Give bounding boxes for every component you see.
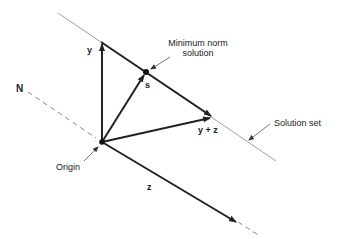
null-space-n-line (28, 92, 96, 138)
label-minimum-norm-line2: solution (166, 48, 230, 58)
minimum-norm-leader (151, 57, 170, 69)
null-space-continuation (238, 222, 260, 236)
label-minimum-norm-line1: Minimum norm (166, 38, 230, 48)
solution-set-leader (249, 124, 270, 140)
origin-point (99, 139, 105, 145)
minimum-norm-point (143, 69, 149, 75)
label-y-plus-z: y + z (198, 125, 218, 135)
vector-z (102, 142, 236, 222)
label-solution-set: Solution set (274, 118, 321, 128)
vector-s (102, 75, 144, 142)
label-s: s (145, 80, 150, 90)
label-minimum-norm-solution: Minimum norm solution (166, 38, 230, 59)
label-y: y (87, 45, 92, 55)
vector-y-plus-z (102, 118, 210, 142)
diagram-canvas: y s y + z z N Origin Minimum norm soluti… (0, 0, 338, 239)
label-z: z (147, 182, 152, 192)
label-origin: Origin (56, 162, 80, 172)
label-n: N (16, 83, 23, 95)
origin-leader (84, 147, 98, 161)
